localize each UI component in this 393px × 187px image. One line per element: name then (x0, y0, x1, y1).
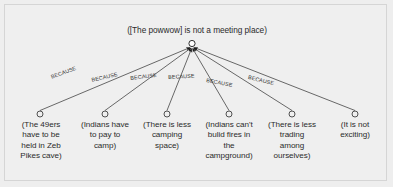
leaf-text-2: (Indians have to pay to camp) (70, 120, 140, 151)
leaf-node-circles (37, 111, 358, 117)
root-hub-circle (189, 40, 195, 46)
diagram-canvas: ([The powwow] is not a meeting place) BE… (0, 0, 393, 187)
leaf-circle-3 (164, 111, 170, 117)
root-claim-text: ([The powwow] is not a meeting place) (96, 25, 298, 35)
leaf-circle-5 (289, 111, 295, 117)
leaf-circle-4 (226, 111, 232, 117)
edge-lines (40, 48, 355, 111)
leaf-text-5: (There is less trading among ourselves) (257, 120, 327, 162)
leaf-text-1: (The 49ers have to be held in Zeb Pikes … (8, 120, 74, 162)
leaf-text-3: (There is less camping space) (132, 120, 202, 151)
leaf-circle-6 (352, 111, 358, 117)
leaf-circle-2 (102, 111, 108, 117)
leaf-text-4: (Indians can't bulid fires in the campgr… (193, 120, 265, 162)
leaf-text-6: (It is not exciting) (325, 120, 385, 141)
leaf-circle-1 (37, 111, 43, 117)
